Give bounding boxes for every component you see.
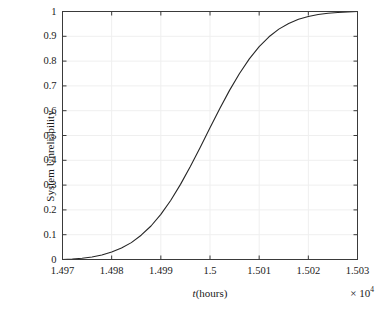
x-axis-tick-label: 1.497 [51,266,75,277]
chart-figure: System Unreliability t(hours) × 104 00.1… [0,0,382,311]
y-axis-tick-label: 0.2 [0,205,57,216]
y-axis-tick-label: 0.4 [0,155,57,166]
y-axis-tick-label: 0.1 [0,229,57,240]
y-axis-tick-label: 0.8 [0,56,57,67]
x-axis-tick-label: 1.503 [346,266,370,277]
y-axis-tick-label: 0.3 [0,180,57,191]
x-axis-tick-label: 1.502 [297,266,321,277]
x-axis-title-units: (hours) [196,287,228,299]
x-axis-multiplier: × 104 [350,287,374,299]
x-axis-tick-label: 1.499 [149,266,173,277]
y-axis-tick-label: 1 [0,6,57,17]
y-axis-tick-label: 0.9 [0,31,57,42]
x-axis-tick-label: 1.5 [203,266,216,277]
y-axis-tick-label: 0 [0,254,57,265]
y-axis-tick-label: 0.7 [0,81,57,92]
y-axis-tick-label: 0.6 [0,105,57,116]
x-axis-multiplier-base: × 10 [350,287,370,299]
x-axis-multiplier-exponent: 4 [370,285,374,294]
x-axis-tick-label: 1.501 [247,266,271,277]
y-axis-tick-label: 0.5 [0,130,57,141]
x-axis-title: t(hours) [62,287,358,299]
x-axis-tick-label: 1.498 [100,266,124,277]
